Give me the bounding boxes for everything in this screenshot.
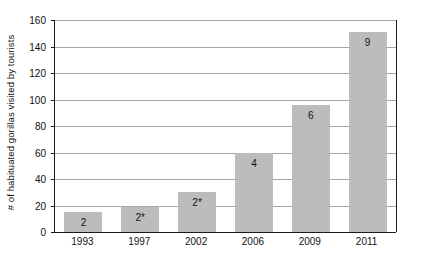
bars-layer: 22*2*469 xyxy=(55,20,396,232)
bar-value-label: 4 xyxy=(251,158,257,169)
y-axis-tick-label: 100 xyxy=(29,94,46,105)
y-axis-tick-labels: 020406080100120140160 xyxy=(22,14,50,232)
x-axis-tick-labels: 199319972002200620092011 xyxy=(54,236,395,256)
bar-value-label: 6 xyxy=(308,110,314,121)
y-axis-tick-label: 40 xyxy=(35,174,46,185)
y-axis-tick-label: 120 xyxy=(29,68,46,79)
y-axis-tick-label: 160 xyxy=(29,15,46,26)
x-axis-tick-label: 1997 xyxy=(128,236,150,247)
bar-group[interactable]: 4 xyxy=(226,20,283,232)
x-axis-tick-label: 1993 xyxy=(71,236,93,247)
y-axis-title-label: # of habituated gorillas visited by tour… xyxy=(6,35,17,211)
y-axis-tick-label: 80 xyxy=(35,121,46,132)
bar[interactable] xyxy=(349,32,387,232)
bar-group[interactable]: 6 xyxy=(282,20,339,232)
x-axis-tick-label: 2002 xyxy=(185,236,207,247)
y-axis-tick-label: 20 xyxy=(35,200,46,211)
bar-value-label: 2* xyxy=(192,197,201,208)
bar-value-label: 2 xyxy=(81,217,87,228)
bar-group[interactable]: 2* xyxy=(112,20,169,232)
y-axis-tick-label: 60 xyxy=(35,147,46,158)
y-axis-tick xyxy=(51,232,55,233)
x-axis-tick-label: 2009 xyxy=(299,236,321,247)
x-axis-tick-label: 2011 xyxy=(356,236,378,247)
bar-value-label: 2* xyxy=(136,212,145,223)
bar-group[interactable]: 2 xyxy=(55,20,112,232)
y-axis-title: # of habituated gorillas visited by tour… xyxy=(0,0,22,245)
plot-area: 22*2*469 xyxy=(54,20,396,233)
y-axis-tick-label: 140 xyxy=(29,41,46,52)
bar-group[interactable]: 2* xyxy=(169,20,226,232)
bar-value-label: 9 xyxy=(365,37,371,48)
bar[interactable] xyxy=(292,105,330,232)
x-axis-tick-label: 2006 xyxy=(242,236,264,247)
bar-chart: # of habituated gorillas visited by tour… xyxy=(0,0,432,260)
y-axis-tick-label: 0 xyxy=(40,227,46,238)
bar-group[interactable]: 9 xyxy=(339,20,396,232)
